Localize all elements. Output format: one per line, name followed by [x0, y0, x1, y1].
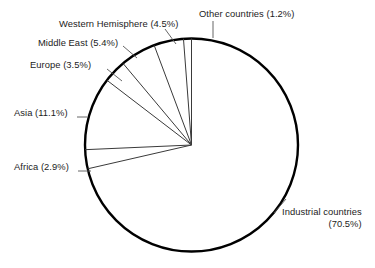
slice-label-other-countries: Other countries (1.2%): [199, 8, 294, 20]
slice-label-asia: Asia (11.1%): [14, 107, 68, 119]
slice-label-industrial-countries-name: Industrial countries: [282, 206, 362, 217]
leader-line-middle-east: [123, 46, 137, 58]
slice-label-middle-east: Middle East (5.4%): [38, 37, 118, 49]
slice-label-europe: Europe (3.5%): [30, 59, 91, 71]
pie-chart-figure: Other countries (1.2%) Western Hemispher…: [0, 0, 375, 268]
slice-label-industrial-countries: Industrial countries (70.5%): [282, 206, 362, 229]
slice-label-industrial-countries-pct: (70.5%): [282, 218, 362, 230]
slice-label-western-hemisphere: Western Hemisphere (4.5%): [59, 18, 178, 30]
slice-label-africa: Africa (2.9%): [14, 161, 69, 173]
